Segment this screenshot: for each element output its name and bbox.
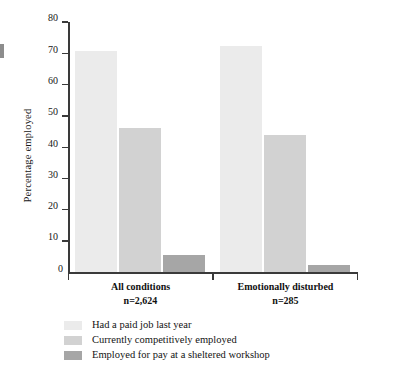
legend-label-2: Currently competitively employed — [92, 335, 237, 346]
bar-g2-s2 — [264, 135, 306, 272]
y-axis-line — [68, 22, 70, 274]
group-label-text-1: All conditions — [111, 281, 170, 292]
legend-item-2: Currently competitively employed — [64, 333, 394, 348]
legend-swatch-3 — [64, 351, 82, 360]
y-tick-40: 40 — [62, 147, 68, 148]
bar-g2-s3 — [308, 265, 350, 273]
group-label-n-2: n=285 — [196, 294, 376, 308]
plot-area: 01020304050607080 — [68, 22, 358, 274]
y-tick-label-70: 70 — [48, 45, 58, 55]
bar-g1-s1 — [75, 51, 117, 273]
page-edge-mark — [0, 44, 4, 58]
y-tick-label-30: 30 — [48, 170, 58, 180]
legend-label-3: Employed for pay at a sheltered workshop — [92, 350, 270, 361]
y-tick-label-40: 40 — [48, 139, 58, 149]
y-tick-80: 80 — [62, 21, 68, 22]
y-tick-30: 30 — [62, 178, 68, 179]
legend-item-1: Had a paid job last year — [64, 318, 394, 333]
y-tick-label-80: 80 — [48, 13, 58, 23]
bar-g1-s3 — [163, 255, 205, 273]
y-tick-60: 60 — [62, 84, 68, 85]
y-tick-label-10: 10 — [48, 232, 58, 242]
y-tick-10: 10 — [62, 240, 68, 241]
y-tick-50: 50 — [62, 115, 68, 116]
group-label-2: Emotionally disturbedn=285 — [196, 280, 376, 307]
group-label-text-2: Emotionally disturbed — [238, 281, 334, 292]
legend-label-1: Had a paid job last year — [92, 320, 191, 331]
y-tick-20: 20 — [62, 209, 68, 210]
y-tick-label-20: 20 — [48, 201, 58, 211]
y-axis-title: Percentage employed — [22, 61, 33, 251]
bar-g2-s1 — [220, 46, 262, 273]
bar-g1-s2 — [119, 128, 161, 273]
legend-swatch-1 — [64, 321, 82, 330]
bar-chart: Percentage employed 01020304050607080 Al… — [0, 0, 409, 374]
legend-swatch-2 — [64, 336, 82, 345]
chart-legend: Had a paid job last yearCurrently compet… — [64, 318, 394, 363]
y-tick-label-60: 60 — [48, 76, 58, 86]
y-tick-label-50: 50 — [48, 107, 58, 117]
legend-item-3: Employed for pay at a sheltered workshop — [64, 348, 394, 363]
y-tick-label-0: 0 — [58, 264, 63, 274]
y-tick-70: 70 — [62, 53, 68, 54]
